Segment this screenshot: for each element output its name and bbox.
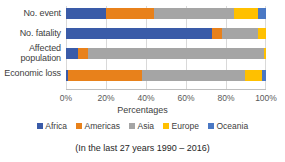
category-axis-labels: No. event No. fatality Affected populati…: [0, 6, 64, 90]
legend-item-europe[interactable]: Europe: [163, 121, 199, 131]
category-label-affected-population: Affected population: [0, 43, 61, 63]
category-label-no-fatality: No. fatality: [0, 28, 61, 38]
x-axis-line: [66, 89, 266, 90]
segment-africa: [66, 28, 212, 39]
segment-oceania: [262, 70, 266, 81]
x-tick-100: 100%: [249, 92, 283, 104]
segment-europe: [234, 8, 258, 19]
bar-row-no-event: [66, 8, 266, 19]
legend-swatch-icon: [208, 123, 214, 129]
x-tick-40: 40%: [129, 92, 163, 104]
segment-asia: [142, 70, 245, 81]
category-label-no-event: No. event: [0, 8, 61, 18]
stacked-bar-chart: No. event No. fatality Affected populati…: [0, 0, 285, 162]
legend-swatch-icon: [37, 123, 43, 129]
segment-americas: [68, 70, 142, 81]
legend-item-americas[interactable]: Americas: [76, 121, 120, 131]
plot-wrapper: No. event No. fatality Affected populati…: [0, 0, 285, 92]
legend-swatch-icon: [76, 123, 82, 129]
segment-europe: [245, 70, 262, 81]
category-label-economic-loss: Economic loss: [0, 68, 61, 78]
segment-asia: [222, 28, 258, 39]
bar-row-affected-population: [66, 48, 266, 59]
x-tick-0: 0%: [49, 92, 83, 104]
legend-item-asia[interactable]: Asia: [129, 121, 154, 131]
segment-americas: [78, 48, 88, 59]
x-axis-title: Percentages: [0, 104, 285, 116]
segment-americas: [106, 8, 154, 19]
legend-swatch-icon: [163, 123, 169, 129]
chart-legend: Africa Americas Asia Europe Oceania: [0, 121, 285, 131]
segment-europe: [258, 28, 266, 39]
x-tick-60: 60%: [169, 92, 203, 104]
legend-label: Asia: [138, 121, 155, 131]
legend-item-africa[interactable]: Africa: [37, 121, 67, 131]
x-tick-80: 80%: [209, 92, 243, 104]
segment-africa: [66, 8, 106, 19]
segment-asia: [154, 8, 234, 19]
legend-item-oceania[interactable]: Oceania: [208, 121, 248, 131]
legend-label: Oceania: [216, 121, 248, 131]
chart-caption: (In the last 27 years 1990 – 2016): [0, 142, 285, 154]
bar-row-economic-loss: [66, 70, 266, 81]
segment-asia: [88, 48, 264, 59]
segment-oceania: [258, 8, 266, 19]
segment-europe: [264, 48, 266, 59]
plot-area: [66, 6, 266, 90]
legend-swatch-icon: [129, 123, 135, 129]
segment-africa: [66, 48, 78, 59]
x-tick-20: 20%: [89, 92, 123, 104]
legend-label: Americas: [85, 121, 120, 131]
bar-row-no-fatality: [66, 28, 266, 39]
legend-label: Africa: [45, 121, 67, 131]
legend-label: Europe: [172, 121, 199, 131]
segment-americas: [212, 28, 222, 39]
